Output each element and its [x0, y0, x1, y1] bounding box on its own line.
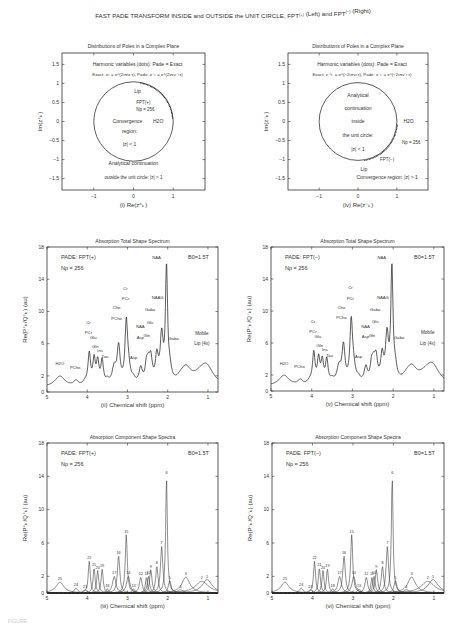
component-label: 19 — [325, 564, 329, 568]
pole-dot — [164, 97, 165, 98]
y-tick-label: 18 — [38, 244, 44, 250]
y-tick-label: 0.5 — [52, 99, 59, 105]
x-tick-label: 4 — [86, 394, 89, 400]
x-tick-label: 4 — [311, 595, 314, 601]
x-tick-label: 1 — [172, 193, 175, 199]
peak-label: H2O — [280, 361, 289, 366]
legend-method: PADE: FPT(+) — [61, 450, 96, 456]
pole-dot — [388, 147, 389, 148]
annotation: Harmonic variables (dots): Pade = Exact — [317, 61, 407, 67]
pole-dot — [364, 160, 365, 161]
pole-dot — [366, 160, 367, 161]
plot-title: Absorption Total Shape Spectrum — [320, 238, 394, 244]
pole-dot — [144, 83, 145, 84]
component-label: 14 — [352, 571, 356, 575]
annotation: Analytical continuation — [109, 160, 159, 166]
component-label: 7 — [161, 541, 163, 545]
pole-dot — [172, 116, 173, 117]
peak-label: Lip (4x) — [194, 341, 210, 346]
peak-label: Gaba — [370, 307, 381, 312]
plot-title: Absorption Component Shape Spectra — [315, 434, 401, 440]
x-tick-label: 1 — [207, 595, 210, 601]
peak-label: Glu — [372, 319, 379, 324]
plot-title: Absorption Component Shape Spectra — [90, 434, 176, 440]
y-axis-label: Re(P⁻ₖ/Q⁻ₖ) (au) — [246, 296, 252, 342]
pole-dot — [374, 157, 375, 158]
pole-dot — [140, 82, 141, 83]
pole-dot — [154, 88, 155, 89]
pole-dot — [378, 154, 379, 155]
pole-dot — [171, 112, 172, 113]
peak-label: NAAG — [152, 295, 164, 300]
y-tick-label: 2 — [265, 372, 268, 378]
component-label: 16 — [342, 551, 346, 555]
component-label: 19 — [100, 564, 104, 568]
x-tick-label: 2 — [392, 393, 395, 399]
y-tick-label: 18 — [38, 440, 44, 446]
legend-np: Np = 256 — [286, 461, 308, 467]
annotation: Convergence region: |z| > 1 — [356, 174, 418, 180]
component-label: 5 — [169, 576, 171, 580]
y-tick-label: 0 — [266, 590, 269, 596]
annotation: Np = 256 — [402, 140, 421, 145]
pole-dot — [387, 148, 388, 149]
pole-dot — [171, 110, 172, 111]
y-tick-label: 1.5 — [278, 61, 285, 67]
y-tick-label: −1 — [53, 156, 59, 162]
pole-dot — [394, 136, 395, 137]
pole-dot — [147, 84, 148, 85]
pole-dot — [373, 157, 374, 158]
component-label: 1 — [432, 575, 434, 579]
component-line — [272, 569, 444, 593]
component-label: 16 — [117, 551, 121, 555]
legend-np: Np = 256 — [61, 461, 83, 467]
pole-dot — [384, 150, 385, 151]
component-label: 15 — [350, 530, 354, 534]
y-tick-label: 10 — [38, 506, 44, 512]
annotation: region: — [122, 128, 137, 134]
pole-dot — [372, 158, 373, 159]
y-axis-label: Im(z⁻ₖ) — [263, 112, 269, 132]
y-axis-label: Re(P⁻ₖ/Q⁻ₖ) (au) — [247, 495, 253, 541]
x-tick-label: 0 — [357, 193, 360, 199]
annotation: inside — [351, 118, 364, 124]
component-label: 22 — [87, 556, 91, 560]
component-label: 7 — [386, 541, 388, 545]
pole-dot — [155, 89, 156, 90]
component-label: 14 — [126, 571, 130, 575]
peak-label: H2O — [56, 361, 65, 366]
y-tick-label: 10 — [263, 506, 269, 512]
component-label: 25 — [58, 577, 62, 581]
component-line — [47, 569, 218, 593]
peak-label: PCho — [294, 364, 305, 369]
peak-label: NAA — [152, 255, 161, 260]
pole-dot — [396, 129, 397, 130]
peak-label: Glu — [90, 335, 97, 340]
legend-method: PADE: FPT(+) — [61, 254, 96, 260]
peak-label: NAA — [361, 324, 370, 329]
pole-dot — [369, 159, 370, 160]
x-tick-label: 5 — [46, 394, 49, 400]
component-line — [272, 567, 444, 593]
annotation: continuation — [345, 105, 372, 111]
y-tick-label: −0.5 — [49, 137, 59, 143]
pole-dot — [148, 85, 149, 86]
pole-dot — [161, 93, 162, 94]
annotation: the unit circle: — [343, 132, 374, 138]
y-tick-label: 1 — [56, 80, 59, 86]
component-line — [272, 481, 444, 593]
x-tick-label: −1 — [316, 193, 322, 199]
peak-label: PCr — [347, 296, 355, 301]
component-label: 6 — [391, 471, 393, 475]
annotation: Exact: z⁻¹ₖ = e^(−2iπνₖτ), Pade: z⁻ₖ = e… — [312, 72, 412, 77]
x-tick-label: 4 — [310, 393, 313, 399]
pole-dot — [167, 102, 168, 103]
y-tick-label: −1 — [279, 156, 285, 162]
legend-method: PADE: FPT(−) — [286, 450, 321, 456]
x-axis-label: (iv) Re(z⁻ₖ) — [343, 202, 374, 208]
component-label: 9 — [375, 565, 377, 569]
component-label: 12 — [139, 572, 143, 576]
x-tick-label: 4 — [86, 595, 89, 601]
peak-label: Cr — [123, 286, 128, 291]
pole-dot — [390, 143, 391, 144]
